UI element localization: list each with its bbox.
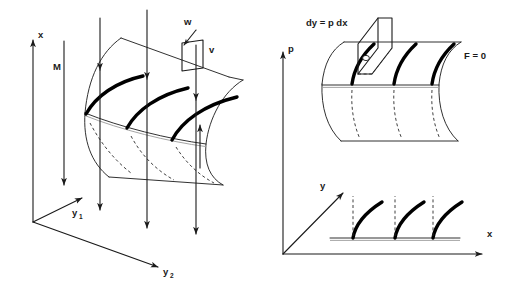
tangent-point-marker (363, 55, 370, 60)
element-label: dy = p dx (306, 17, 348, 28)
moment-label: M (53, 61, 61, 72)
axis-label-y-right: y (320, 180, 326, 191)
axis-label-y1-subscript: 1 (79, 213, 83, 220)
axis-label-y2: y (163, 266, 169, 277)
axis-label-y2-subscript: 2 (170, 272, 174, 279)
w-label: w (183, 16, 192, 27)
axis-label-y1: y (72, 207, 78, 218)
diagram-background (0, 0, 512, 293)
technical-diagram: x y 1 y 2 M (0, 0, 512, 293)
v-label: v (209, 44, 215, 55)
condition-label: F = 0 (464, 50, 486, 61)
axis-label-x-left: x (38, 29, 44, 40)
axis-label-x-right: x (487, 228, 493, 239)
axis-label-p: p (288, 43, 294, 54)
